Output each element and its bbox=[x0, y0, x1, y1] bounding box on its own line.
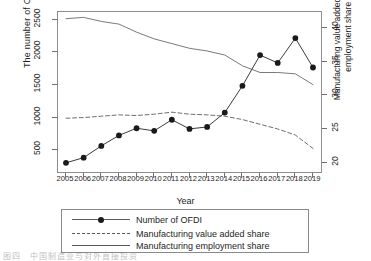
x-tick-mark bbox=[294, 173, 295, 178]
plot-svg bbox=[58, 12, 321, 172]
data-point bbox=[98, 143, 104, 149]
y-right-tick-mark bbox=[322, 128, 327, 129]
data-point bbox=[204, 124, 210, 130]
data-point bbox=[151, 128, 157, 134]
y-right-tick-mark bbox=[322, 94, 327, 95]
y-right-tick-label: 20 bbox=[330, 150, 340, 172]
x-tick-mark bbox=[259, 173, 260, 178]
x-tick-mark bbox=[241, 173, 242, 178]
data-point bbox=[222, 110, 228, 116]
y-left-tick-label: 500 bbox=[32, 133, 42, 163]
data-point bbox=[169, 117, 175, 123]
x-tick-mark bbox=[136, 173, 137, 178]
x-tick-mark bbox=[206, 173, 207, 178]
legend-label-value-added: Manufacturing value added share bbox=[136, 229, 270, 239]
data-point bbox=[240, 83, 246, 89]
y-right-tick-mark bbox=[322, 162, 327, 163]
legend-solid-line-icon bbox=[72, 245, 130, 246]
x-tick-mark bbox=[277, 173, 278, 178]
y-right-tick-mark bbox=[322, 61, 327, 62]
x-tick-mark bbox=[100, 173, 101, 178]
x-tick-mark bbox=[118, 173, 119, 178]
legend-marker-icon bbox=[98, 217, 104, 223]
y-left-tick-label: 1000 bbox=[32, 101, 42, 131]
x-tick-mark bbox=[171, 173, 172, 178]
data-point bbox=[187, 126, 193, 132]
y-right-tick-mark bbox=[322, 27, 327, 28]
y-right-tick-label: 35 bbox=[330, 49, 340, 71]
data-point bbox=[292, 35, 298, 41]
legend-key-solid-marker bbox=[70, 213, 132, 227]
x-axis-title: Year bbox=[0, 196, 371, 206]
x-tick-mark bbox=[83, 173, 84, 178]
data-point bbox=[63, 160, 69, 166]
legend-label-ofdi: Number of OFDI bbox=[136, 215, 202, 225]
y-left-tick-label: 2000 bbox=[32, 35, 42, 65]
y-right-tick-label: 30 bbox=[330, 82, 340, 104]
plot-area bbox=[57, 11, 322, 173]
y-axis-left-title: The number of OFDI bbox=[22, 0, 32, 110]
data-point bbox=[116, 133, 122, 139]
chart-root: The number of OFDI Manufacturing value a… bbox=[0, 0, 371, 261]
y-left-tick-label: 1500 bbox=[32, 68, 42, 98]
legend-dashed-line-icon bbox=[72, 233, 130, 234]
x-tick-mark bbox=[189, 173, 190, 178]
figure-caption: 图四 中国制造业与对外直接投资 bbox=[3, 250, 203, 261]
data-point bbox=[310, 65, 316, 71]
legend-item-ofdi: Number of OFDI bbox=[62, 213, 308, 227]
data-point bbox=[81, 155, 87, 161]
data-point bbox=[134, 125, 140, 131]
x-tick-mark bbox=[224, 173, 225, 178]
data-point bbox=[275, 60, 281, 66]
y-right-tick-label: 40 bbox=[330, 15, 340, 37]
x-tick-mark bbox=[312, 173, 313, 178]
y-left-tick-label: 2500 bbox=[32, 3, 42, 33]
chart-legend: Number of OFDI Manufacturing value added… bbox=[61, 209, 309, 253]
y-right-tick-label: 25 bbox=[330, 116, 340, 138]
data-point bbox=[257, 52, 263, 58]
series-line-2 bbox=[66, 17, 313, 84]
x-tick-mark bbox=[65, 173, 66, 178]
x-tick-mark bbox=[153, 173, 154, 178]
